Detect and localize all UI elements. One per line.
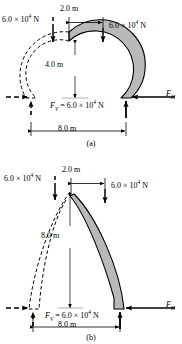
panel-b-fv-label: FV = 6.0 × 104 N [45,312,99,320]
panel-a-fh-subscript: H [171,94,175,100]
panel-b-span-label: 8.0 m [58,321,76,329]
panel-a-load-left-label: 6.0 × 104 N [2,16,39,24]
panel-b-arch-solid [70,194,124,309]
panel-b-fh-label: FH [166,301,175,309]
panel-b-left-support-reactions [6,308,33,326]
panel-a-fh-label: FH [166,90,175,98]
panel-b-load-right-unit: N [140,181,148,190]
panel-a-caption: (a) [0,140,182,148]
panel-a-load-right-unit: N [138,21,146,30]
panel-a-right-support-reactions [126,97,175,118]
panel-b-height-label: 8.0 m [41,232,59,240]
panel-a-fv-value: = 6.0 × 10 [58,101,93,110]
panel-a-load-right-label: 6.0 × 104 N [109,22,146,30]
panel-b-right-support-reactions [120,308,175,329]
panel-b-top-dimension [71,178,105,194]
panel-b-load-right-label: 6.0 × 104 N [111,182,148,190]
panel-a-load-left-unit: N [31,15,39,24]
panel-a-load-left-mantissa: 6.0 × 10 [2,15,29,24]
panel-a-span-dimension [31,122,126,136]
panel-b-load-right-mantissa: 6.0 × 10 [111,181,138,190]
panel-a-height-dimension [62,44,88,98]
panel-a-span-label: 8.0 m [58,125,76,133]
panel-a-top-width-label: 2.0 m [60,5,78,13]
panel-a-arch-solid [69,20,145,98]
panel-b-fh-subscript: H [171,305,175,311]
figure-root: 2.0 m 6.0 × 104 N 6.0 × 104 N 4.0 m FV =… [0,0,182,344]
panel-a-fv-label: FV = 6.0 × 104 N [50,102,104,110]
panel-b-span-dimension [33,318,120,332]
panel-a-load-right-mantissa: 6.0 × 10 [109,21,136,30]
panel-b-height-dimension [58,197,83,308]
panel-b-fv-value: = 6.0 × 10 [53,311,88,320]
panel-b-caption: (b) [0,334,182,342]
panel-b-load-left-label: 6.0 × 104 N [4,175,41,183]
panel-a-fv-unit: N [96,101,104,110]
panel-a-left-support-reactions [6,97,31,115]
panel-b-load-left-unit: N [33,174,41,183]
panel-b-load-left-mantissa: 6.0 × 10 [4,174,31,183]
arch-diagram-graphics [0,0,182,344]
panel-b-arch-dashed [29,192,70,309]
panel-b-fv-unit: N [91,311,99,320]
panel-b-top-width-label: 2.0 m [62,166,80,174]
panel-a-height-label: 4.0 m [45,61,63,69]
